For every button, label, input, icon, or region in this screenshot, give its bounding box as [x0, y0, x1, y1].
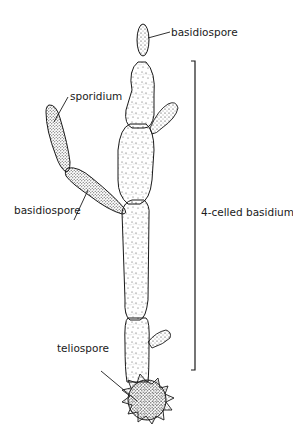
basidiospore-left-label: basidiospore	[14, 205, 81, 216]
basidium-diagram	[0, 0, 293, 436]
teliospore-label: teliospore	[57, 343, 109, 354]
basidium-cells	[118, 62, 154, 382]
basidiospore-top-shape	[137, 24, 149, 56]
four-celled-basidium-label: 4-celled basidium	[201, 207, 293, 218]
basidiospore-top-label: basidiospore	[171, 27, 238, 38]
left-spores	[46, 105, 126, 214]
basidium-bracket	[191, 61, 195, 370]
sporidium-label: sporidium	[70, 91, 122, 102]
